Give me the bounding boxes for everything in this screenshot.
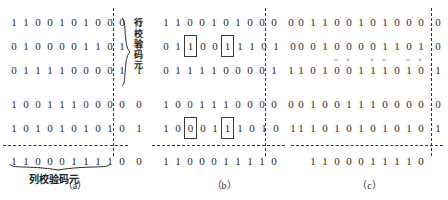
column-parity-bit: 1 (256, 149, 268, 173)
bit-cell: 1 (8, 92, 20, 116)
bit-cell: 1 (8, 10, 20, 34)
bit-cell: 1 (56, 10, 68, 34)
bit-row: 10101010101 (8, 116, 145, 140)
bit-cell: 0 (355, 34, 367, 58)
bit-cell: 0× (415, 58, 427, 82)
error-x-icon: × (406, 57, 410, 64)
bit-cell: 0 (172, 92, 184, 116)
bit-cell: 1 (160, 10, 172, 34)
bit-cell: 0 (104, 92, 116, 116)
bit-cell: 1 (80, 34, 92, 58)
bit-cell: 0 (32, 34, 44, 58)
row-parity-bit: 0 (432, 10, 444, 34)
vertical-parity-divider-c (431, 8, 432, 156)
bit-cell: 0 (32, 10, 44, 34)
bit-cell: 0 (244, 92, 256, 116)
bit-cell: 0 (244, 10, 256, 34)
bit-cell: 1 (415, 34, 427, 58)
bit-cell: 0 (160, 34, 172, 58)
horizontal-parity-divider-c (291, 145, 443, 146)
bit-cell: 1 (208, 10, 220, 34)
row-parity-bit: 1 (432, 58, 444, 82)
bit-cell: 0 (391, 10, 403, 34)
error-x-icon: × (370, 57, 374, 64)
bit-cell: 0 (270, 116, 282, 140)
bit-cell: 1 (234, 116, 246, 140)
bit-cell: 1 (295, 58, 307, 82)
column-parity-bit: 1 (379, 149, 391, 173)
bit-cell: 1 (196, 92, 208, 116)
column-parity-bit: 0 (116, 149, 128, 173)
bit-cell: 0 (220, 10, 232, 34)
bit-cell: 1 (104, 116, 116, 140)
bit-cell-highlighted: 1 (221, 35, 234, 57)
bit-cell: 1 (258, 116, 270, 140)
bit-row: 01100111010 (160, 34, 299, 58)
bit-cell: 0 (20, 92, 32, 116)
row-parity-label-a: 行 校 验 码 元 (133, 18, 144, 71)
bit-cell: 0 (268, 92, 280, 116)
bit-row: 11001010000 (160, 10, 299, 34)
bit-cell: 0 (92, 92, 104, 116)
bit-cell: 1 (44, 92, 56, 116)
corner-parity-bit: 0 (133, 149, 145, 173)
bit-cell: 1 (379, 34, 391, 58)
bit-cell: 0 (367, 10, 379, 34)
column-parity-bit: 0 (415, 149, 427, 173)
column-parity-bit: 0 (208, 149, 220, 173)
bit-cell: 1 (319, 58, 331, 82)
bit-cell: 0 (268, 10, 280, 34)
bit-cell: 1 (196, 58, 208, 82)
bit-row: 011001010000 (295, 10, 444, 34)
bit-cell: 0 (8, 58, 20, 82)
caption-c: （c） (291, 177, 448, 192)
bit-cell: 1 (32, 116, 44, 140)
row-parity-char-1: 校 (133, 29, 144, 40)
bit-cell: 0 (104, 58, 116, 82)
bit-cell: 1 (172, 58, 184, 82)
bit-cell: 1 (20, 58, 32, 82)
bit-cell: 0 (319, 116, 331, 140)
vertical-parity-divider-a (113, 8, 114, 156)
bit-cell: 1 (160, 92, 172, 116)
bit-cell: 1 (355, 10, 367, 34)
horizontal-parity-divider-b (152, 145, 285, 146)
bit-cell: 0 (258, 34, 270, 58)
row-parity-brace-a (120, 16, 132, 88)
bit-row: 010011100000 (295, 92, 444, 116)
bit-cell: 1 (355, 58, 367, 82)
bit-grid-b: 1100101000001100111010011110000111001110… (160, 10, 299, 173)
bit-cell-highlighted: 0 (184, 117, 197, 139)
bit-cell: 0 (256, 58, 268, 82)
bit-cell: 0 (403, 92, 415, 116)
bit-cell: 0 (367, 34, 379, 58)
bit-cell: 1 (56, 58, 68, 82)
bit-cell: 0 (68, 58, 80, 82)
bit-cell: 1 (20, 34, 32, 58)
panel-b: 1100101000001100111010011110000111001110… (150, 0, 298, 200)
bit-cell: 0 (256, 10, 268, 34)
row-parity-bit: 1 (432, 116, 444, 140)
bit-cell: 1× (367, 58, 379, 82)
bit-cell: 0 (44, 34, 56, 58)
bit-cell: 0 (244, 58, 256, 82)
bit-cell: 1 (307, 92, 319, 116)
bit-cell: 0 (295, 10, 307, 34)
bit-cell: 1 (232, 10, 244, 34)
bit-cell: 1 (92, 34, 104, 58)
error-x-icon: × (346, 57, 350, 64)
bit-cell: 0 (331, 34, 343, 58)
bit-cell: 0 (391, 92, 403, 116)
bit-cell: 0 (379, 92, 391, 116)
bit-cell: 0 (295, 92, 307, 116)
bit-cell: 0 (104, 10, 116, 34)
bit-cell: 1 (160, 116, 172, 140)
bit-cell: 0 (307, 34, 319, 58)
row-parity-char-4: 元 (133, 60, 144, 71)
bit-cell: 1 (80, 116, 92, 140)
bit-cell: 1 (32, 58, 44, 82)
panel-c: 0110010100000010000110101010×0×11×1×01×0… (291, 0, 448, 200)
bit-cell: 0 (391, 58, 403, 82)
bit-cell: 0 (184, 92, 196, 116)
bit-cell: 1 (209, 116, 221, 140)
